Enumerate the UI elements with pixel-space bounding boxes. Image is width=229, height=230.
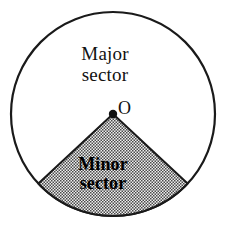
minor-sector-label-line2: sector (50, 174, 156, 193)
major-sector-label-line2: sector (52, 65, 158, 86)
minor-sector-label: Minor sector (50, 155, 156, 194)
centre-point-label: O (118, 99, 140, 118)
minor-sector-label-line1: Minor (50, 155, 156, 174)
figure-canvas (0, 0, 229, 230)
major-sector-label-line1: Major (52, 44, 158, 65)
major-sector-label: Major sector (52, 44, 158, 85)
circle-sector-figure: Major sector Minor sector O (0, 0, 229, 230)
centre-point-dot (109, 110, 117, 118)
